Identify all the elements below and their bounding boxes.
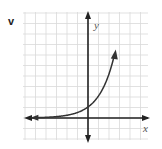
y-axis-label: y (93, 19, 99, 31)
y-axis-up-arrow-icon (85, 11, 91, 19)
y-axis (85, 11, 91, 143)
curve-top-arrow-icon (111, 49, 118, 59)
graph: y x (0, 0, 162, 149)
x-axis-label: x (142, 122, 148, 134)
grid-lines (23, 12, 148, 140)
x-axis-right-arrow-icon (142, 115, 150, 121)
